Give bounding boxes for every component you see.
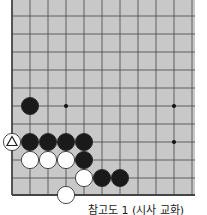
black-stone[interactable] (75, 151, 92, 168)
black-stone[interactable] (111, 169, 128, 186)
star-point (64, 104, 68, 108)
star-point (172, 104, 176, 108)
white-stone[interactable] (57, 186, 74, 203)
white-stone[interactable] (21, 151, 38, 168)
board-surface (12, 0, 195, 195)
black-stone[interactable] (21, 133, 38, 150)
star-point (172, 140, 176, 144)
diagram-caption: 참고도 1 (시사 교화) (88, 205, 184, 215)
black-stone[interactable] (39, 133, 56, 150)
black-stone[interactable] (75, 133, 92, 150)
white-stone[interactable] (75, 169, 92, 186)
white-stone[interactable] (57, 151, 74, 168)
black-stone[interactable] (57, 133, 74, 150)
go-board (0, 0, 207, 215)
black-stone[interactable] (93, 169, 110, 186)
white-stone[interactable] (39, 151, 56, 168)
black-stone[interactable] (21, 97, 38, 114)
